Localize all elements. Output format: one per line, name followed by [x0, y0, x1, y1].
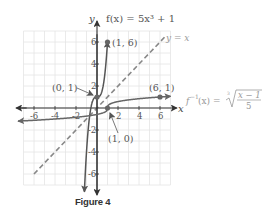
- point-1-0: [105, 105, 110, 110]
- identity-line-label: y = x: [165, 33, 189, 43]
- axes: [16, 21, 177, 195]
- figure-caption: Figure 4: [75, 196, 110, 207]
- x-tick-label: 4: [137, 111, 142, 121]
- x-axis-label: x: [178, 103, 184, 114]
- svg-text:(x) =: (x) =: [198, 96, 221, 106]
- y-tick-label: 4: [91, 59, 96, 69]
- point-label-1-0: (1, 0): [108, 133, 134, 144]
- function-inverse-graph: -6-4-2246-6-4-2246 y x f(x) = 5x³ + 1 y …: [0, 0, 277, 216]
- identity-line-group: [34, 37, 165, 175]
- point-0-1: [94, 94, 99, 99]
- f-function-label: f(x) = 5x³ + 1: [106, 13, 175, 24]
- point-1-6: [105, 39, 110, 44]
- y-tick-label: -6: [88, 169, 96, 179]
- y-tick-label: -4: [88, 147, 96, 157]
- x-tick-label: 6: [158, 111, 163, 121]
- curve-f_inverse: [18, 96, 170, 121]
- x-tick-label: -2: [72, 111, 80, 121]
- identity-line: [34, 37, 165, 175]
- point-6-1: [157, 94, 162, 99]
- y-tick-label: 2: [91, 81, 96, 91]
- svg-text:3: 3: [227, 91, 230, 96]
- point-label-1-6: (1, 6): [112, 37, 138, 48]
- svg-text:x − 1: x − 1: [238, 90, 261, 100]
- f-inverse-label: f −1 (x) = 3 x − 1 5: [185, 90, 262, 111]
- y-axis-label: y: [88, 13, 95, 24]
- point-label-0-1: (0, 1): [52, 82, 78, 93]
- y-tick-label: 6: [91, 37, 96, 47]
- point-label-6-1: (6, 1): [149, 82, 175, 93]
- x-tick-label: 2: [116, 111, 121, 121]
- y-tick-label: -2: [88, 125, 96, 135]
- svg-text:5: 5: [246, 101, 251, 111]
